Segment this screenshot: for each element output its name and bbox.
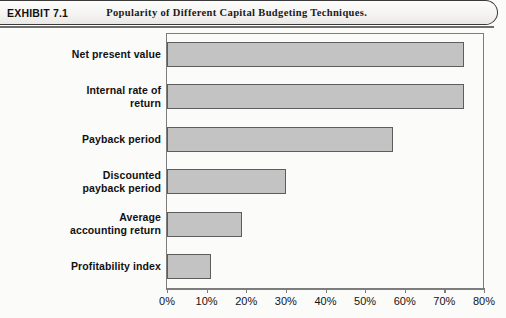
bar bbox=[167, 254, 211, 279]
bar-row: Net present value bbox=[0, 33, 506, 76]
x-axis-tick-label: 40% bbox=[314, 295, 336, 307]
bar-category-label: Profitability index bbox=[11, 260, 161, 273]
bar-track bbox=[167, 76, 464, 119]
bar-row: Internal rate ofreturn bbox=[0, 76, 506, 119]
x-axis-tick-label: 50% bbox=[354, 295, 376, 307]
bar-row: Payback period bbox=[0, 118, 506, 161]
x-axis-tick-label: 60% bbox=[394, 295, 416, 307]
bar-category-label-line: Discounted bbox=[11, 169, 161, 182]
x-axis-tick bbox=[207, 288, 208, 293]
x-axis-tick bbox=[444, 288, 445, 293]
bar-category-label-line: return bbox=[11, 97, 161, 110]
bar-category-label: Internal rate ofreturn bbox=[11, 84, 161, 110]
bar-track bbox=[167, 161, 286, 204]
bar-category-label-line: Profitability index bbox=[11, 260, 161, 273]
bar bbox=[167, 42, 464, 67]
x-axis-tick-label: 30% bbox=[275, 295, 297, 307]
bar-track bbox=[167, 118, 393, 161]
exhibit-number-label: EXHIBIT 7.1 bbox=[7, 7, 68, 19]
bar-row: Averageaccounting return bbox=[0, 203, 506, 246]
x-axis-tick-label: 10% bbox=[196, 295, 218, 307]
bar-category-label-line: payback period bbox=[11, 182, 161, 195]
bar-category-label: Net present value bbox=[11, 48, 161, 61]
bar-track bbox=[167, 203, 242, 246]
bar bbox=[167, 212, 242, 237]
x-axis-tick bbox=[326, 288, 327, 293]
bar-category-label-line: Payback period bbox=[11, 133, 161, 146]
bar-category-label: Averageaccounting return bbox=[11, 211, 161, 237]
x-axis-tick bbox=[484, 288, 485, 293]
bar-rows: Net present valueInternal rate ofreturnP… bbox=[0, 33, 506, 288]
bar bbox=[167, 127, 393, 152]
bar bbox=[167, 169, 286, 194]
header-divider bbox=[0, 26, 494, 28]
bar-category-label-line: Average bbox=[11, 211, 161, 224]
bar-category-label: Payback period bbox=[11, 133, 161, 146]
bar bbox=[167, 84, 464, 109]
bar-category-label-line: accounting return bbox=[11, 224, 161, 237]
bar-row: Discountedpayback period bbox=[0, 161, 506, 204]
x-axis-tick bbox=[405, 288, 406, 293]
bar-track bbox=[167, 33, 464, 76]
x-axis-tick bbox=[286, 288, 287, 293]
exhibit-header: EXHIBIT 7.1 Popularity of Different Capi… bbox=[0, 0, 498, 25]
bar-row: Profitability index bbox=[0, 246, 506, 289]
exhibit-title: Popularity of Different Capital Budgetin… bbox=[106, 7, 367, 18]
bar-category-label-line: Net present value bbox=[11, 48, 161, 61]
bar-category-label-line: Internal rate of bbox=[11, 84, 161, 97]
bar-category-label: Discountedpayback period bbox=[11, 169, 161, 195]
x-axis-tick bbox=[246, 288, 247, 293]
bar-chart: Net present valueInternal rate ofreturnP… bbox=[0, 30, 506, 318]
x-axis-tick bbox=[365, 288, 366, 293]
x-axis-tick-label: 70% bbox=[433, 295, 455, 307]
bar-track bbox=[167, 246, 211, 289]
x-axis-tick bbox=[167, 288, 168, 293]
x-axis-tick-label: 20% bbox=[235, 295, 257, 307]
x-axis-tick-label: 80% bbox=[473, 295, 495, 307]
x-axis-tick-label: 0% bbox=[159, 295, 175, 307]
